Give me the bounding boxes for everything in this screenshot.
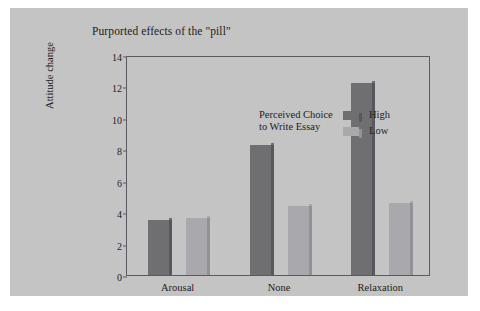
legend-label-high: High [369, 109, 390, 120]
y-tick-mark [123, 88, 127, 89]
bar-arousal-low [186, 218, 207, 275]
y-tick-label: 8 [117, 146, 122, 157]
chart-title: Purported effects of the "pill" [92, 25, 231, 37]
plot-area: 02468101214 ArousalNoneRelaxation Percei… [126, 56, 430, 276]
x-tick-label: Relaxation [358, 282, 404, 293]
legend-swatch-low [343, 127, 359, 136]
legend-swatch-high [343, 111, 359, 120]
y-tick-mark [123, 277, 127, 278]
x-tick-label: Arousal [161, 282, 194, 293]
figure-panel: Purported effects of the "pill" Attitude… [10, 8, 468, 296]
y-tick-label: 14 [112, 52, 122, 63]
y-tick-mark [123, 119, 127, 120]
y-tick-label: 4 [117, 209, 122, 220]
y-tick-label: 12 [112, 83, 122, 94]
bar-relaxation-low [389, 203, 410, 275]
bar-arousal-high [148, 220, 169, 275]
y-axis-title: Attitude change [44, 16, 55, 136]
y-tick-mark [123, 57, 127, 58]
x-tick-label: None [268, 282, 291, 293]
y-tick-mark [123, 214, 127, 215]
legend-caption: Perceived Choice to Write Essay [259, 109, 333, 133]
bar-none-high [250, 145, 271, 275]
y-tick-mark [123, 182, 127, 183]
legend-label-low: Low [369, 125, 388, 136]
y-tick-mark [123, 245, 127, 246]
y-tick-label: 2 [117, 240, 122, 251]
y-tick-label: 0 [117, 272, 122, 283]
y-tick-label: 10 [112, 114, 122, 125]
chart-legend: Perceived Choice to Write Essay High Low [259, 108, 409, 148]
bar-none-low [288, 206, 309, 275]
legend-caption-line-2: to Write Essay [259, 121, 333, 133]
legend-caption-line-1: Perceived Choice [259, 109, 333, 121]
y-tick-label: 6 [117, 177, 122, 188]
y-tick-mark [123, 151, 127, 152]
